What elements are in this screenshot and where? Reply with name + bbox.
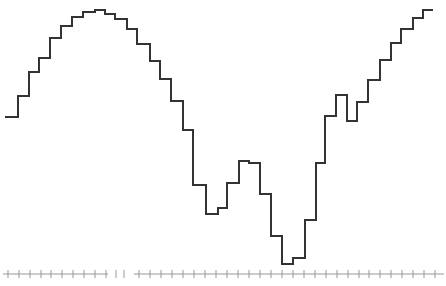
x-axis	[3, 270, 444, 278]
chart-canvas	[0, 0, 446, 286]
step-line-chart	[0, 0, 446, 286]
step-line-series	[5, 10, 433, 264]
